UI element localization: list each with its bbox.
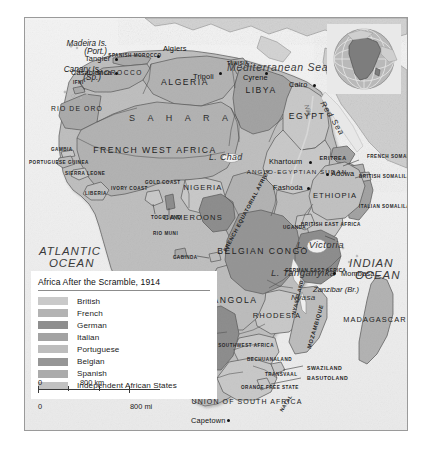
legend-item-belgian[interactable]: Belgian bbox=[38, 355, 210, 367]
territory-label-basutoland: BASUTOLAND bbox=[307, 376, 348, 381]
territory-label-algeria: ALGERIA bbox=[161, 78, 209, 87]
territory-label-ethiopia: ETHIOPIA bbox=[313, 192, 357, 200]
city-dot-cairo bbox=[313, 84, 316, 87]
territory-label-mozambique: MOZAMBIQUE bbox=[307, 304, 325, 350]
legend-label-portuguese: Portuguese bbox=[77, 345, 119, 354]
territory-label-nigeria: NIGERIA bbox=[184, 184, 223, 192]
scale-km-tick-1 bbox=[68, 386, 69, 391]
territory-label-belgian-congo: BELGIAN CONGO bbox=[217, 246, 309, 257]
territory-label-british-east-africa: BRITISH EAST AFRICA bbox=[301, 222, 349, 228]
city-dot-cyrene bbox=[265, 72, 268, 75]
legend-swatch-british bbox=[38, 297, 68, 305]
territory-label-angola: ANGOLA bbox=[213, 296, 258, 305]
scale-mi: 0 800 mi bbox=[38, 399, 210, 413]
scale-km-tick-0 bbox=[38, 386, 39, 393]
territory-label-swaziland: SWAZILAND bbox=[307, 366, 342, 371]
legend-label-british: British bbox=[77, 297, 100, 306]
city-label-capetown: Capetown bbox=[191, 417, 225, 425]
legend-label-italian: Italian bbox=[77, 333, 99, 342]
territory-label-british-somaliland: BRITISH SOMALILAND bbox=[359, 174, 401, 180]
ocean-label-atlantic: ATLANTIC OCEAN bbox=[39, 246, 101, 269]
territory-label-eritrea: ERITREA bbox=[319, 156, 346, 162]
legend-label-german: German bbox=[77, 321, 107, 330]
globe-inset bbox=[327, 24, 401, 94]
legend-swatch-french bbox=[38, 309, 68, 317]
territory-label-german-east-africa: GERMAN EAST AFRICA bbox=[285, 268, 329, 274]
region-label-sahara: S A H A R A bbox=[129, 114, 233, 123]
map-frame: ATLANTIC OCEAN INDIAN OCEAN Mediterranea… bbox=[24, 17, 408, 431]
city-label-fashoda: Fashoda bbox=[273, 184, 303, 192]
territory-label-cameroons: CAMEROONS bbox=[163, 214, 223, 222]
territory-label-portuguese-guinea: PORTUGUESE GUINEA bbox=[29, 160, 71, 165]
city-dot-fashoda bbox=[307, 187, 310, 190]
territory-label-rio-de-oro: RIO DE ORO bbox=[51, 106, 103, 113]
territory-label-madagascar: MADAGASCAR bbox=[343, 316, 407, 324]
legend-label-french: French bbox=[77, 309, 103, 318]
scale-km-tick-2 bbox=[99, 386, 100, 391]
territory-label-french-equatorial-africa: FRENCH EQUATORIAL AFRICA bbox=[223, 168, 271, 252]
scale-mi-zero: 0 bbox=[38, 402, 42, 411]
territory-label-ifni: IFNI bbox=[73, 81, 84, 86]
legend-label-belgian: Belgian bbox=[77, 357, 105, 366]
city-label-algiers: Algiers bbox=[163, 45, 187, 53]
territory-label-ivory-coast: IVORY COAST bbox=[111, 186, 141, 191]
territory-label-anglo-egyptian-sudan: ANGLO-EGYPTIAN SUDAN bbox=[247, 168, 347, 176]
territory-label-sierra-leone: SIERRA LEONE bbox=[65, 171, 97, 176]
legend-swatch-belgian bbox=[38, 358, 68, 366]
territory-label-morocco: MOROCCO bbox=[97, 70, 143, 77]
island-label-zanzibar: Zanzibar (Br.) bbox=[313, 286, 359, 294]
legend-swatch-spanish bbox=[38, 370, 68, 378]
territory-label-bechuanaland: BECHUANALAND bbox=[247, 358, 292, 363]
legend-swatch-german bbox=[38, 321, 68, 329]
legend-label-spanish: Spanish bbox=[77, 369, 107, 378]
legend-divider bbox=[38, 290, 210, 291]
territory-label-libya: LIBYA bbox=[245, 86, 276, 95]
legend-item-british[interactable]: British bbox=[38, 295, 210, 307]
legend-title: Africa After the Scramble, 1914 bbox=[38, 277, 210, 290]
legend-item-german[interactable]: German bbox=[38, 319, 210, 331]
territory-label-cabinda: CABINDA bbox=[173, 256, 198, 261]
territory-label-egypt: EGYPT bbox=[289, 112, 326, 121]
map-page: ATLANTIC OCEAN INDIAN OCEAN Mediterranea… bbox=[0, 0, 428, 454]
territory-label-french-west-africa: FRENCH WEST AFRICA bbox=[93, 146, 216, 155]
territory-label-gambia: GAMBIA bbox=[51, 148, 73, 153]
territory-label-gold-coast: GOLD COAST bbox=[145, 180, 171, 185]
territory-label-orange-free-state: ORANGE FREE STATE bbox=[241, 385, 285, 391]
scale-mi-max: 800 mi bbox=[130, 402, 152, 411]
territory-label-rio-muni: RIO MUNI bbox=[153, 232, 178, 237]
territory-label-spanish-morocco: SPANISH MOROCCO bbox=[108, 54, 161, 59]
city-label-cairo: Cairo bbox=[289, 81, 307, 89]
city-label-cyrene: Cyrene bbox=[243, 74, 268, 82]
scale-km: 0 800 km bbox=[38, 378, 210, 399]
city-label-tangier: Tangier bbox=[85, 55, 110, 63]
legend-item-portuguese[interactable]: Portuguese bbox=[38, 343, 210, 355]
territory-label-italian-somaliland: ITALIAN SOMALILAND bbox=[359, 204, 401, 210]
legend-item-french[interactable]: French bbox=[38, 307, 210, 319]
territory-label-french-somaliland: FRENCH SOMALILAND bbox=[367, 154, 407, 160]
territory-label-liberia: LIBERIA bbox=[85, 192, 107, 197]
map-scale-bars: 0 800 km 0 800 mi bbox=[31, 378, 217, 413]
legend-swatch-italian bbox=[38, 333, 68, 341]
scale-km-tick-3 bbox=[129, 386, 130, 393]
city-dot-capetown bbox=[227, 419, 230, 422]
territory-label-transvaal: TRANSVAAL bbox=[265, 373, 298, 378]
territory-label-tunisia: TUNISIA bbox=[227, 62, 249, 67]
city-dot-khartoum bbox=[309, 161, 312, 164]
scale-km-max: 800 km bbox=[80, 378, 104, 387]
legend-item-italian[interactable]: Italian bbox=[38, 331, 210, 343]
territory-label-uganda: UGANDA bbox=[283, 226, 306, 231]
city-dot-tripoli bbox=[219, 72, 222, 75]
city-label-khartoum: Khartoum bbox=[269, 158, 302, 166]
legend-swatch-portuguese bbox=[38, 345, 68, 353]
